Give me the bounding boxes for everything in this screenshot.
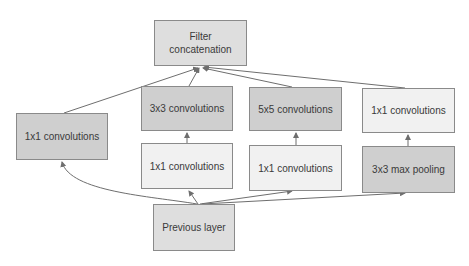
edge-prev-to-reduce-3x3 — [189, 191, 198, 204]
node-max-pool: 3x3 max pooling — [362, 146, 455, 193]
edge-conv-5x5-to-concat — [203, 68, 292, 87]
edge-right-1x1-to-concat — [204, 67, 405, 88]
node-reduce-5x5: 1x1 convolutions — [249, 145, 342, 191]
node-label: 5x5 convolutions — [258, 103, 333, 116]
node-conv-5x5: 5x5 convolutions — [249, 87, 342, 131]
node-label: 3x3 convolutions — [150, 102, 225, 115]
node-label: Previous layer — [162, 221, 225, 234]
node-conv-3x3: 3x3 convolutions — [141, 86, 233, 131]
node-label: 1x1 convolutions — [258, 162, 333, 175]
node-filter-concat: Filter concatenation — [154, 20, 247, 66]
node-label: Filter concatenation — [169, 30, 231, 56]
node-left-1x1: 1x1 convolutions — [16, 113, 108, 160]
node-prev-layer: Previous layer — [153, 204, 235, 251]
node-label: 1x1 convolutions — [371, 104, 446, 117]
node-right-1x1: 1x1 convolutions — [362, 88, 455, 133]
node-label: 3x3 max pooling — [372, 163, 445, 176]
edge-prev-to-max-pool — [202, 193, 405, 204]
node-label: 1x1 convolutions — [25, 130, 100, 143]
node-label: 1x1 convolutions — [150, 160, 225, 173]
node-reduce-3x3: 1x1 convolutions — [141, 143, 233, 189]
